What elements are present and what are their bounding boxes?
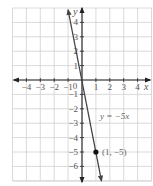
y-tick-label: −4 (68, 133, 78, 143)
x-tick-label: 4 (135, 82, 140, 92)
y-tick-label: −3 (68, 118, 78, 128)
equation-label: y = −5x (99, 111, 129, 121)
y-axis-label: y (72, 6, 78, 17)
x-tick-label: 3 (121, 82, 126, 92)
graph-y-equals-neg5x: xy −4−3−2−112341234−1−2−3−4−5−60 (1, −5)… (0, 0, 153, 186)
x-tick-label: 2 (108, 82, 113, 92)
point-label: (1, −5) (102, 147, 127, 157)
y-tick-label: 4 (74, 17, 79, 27)
data-points: (1, −5) (93, 147, 126, 157)
y-tick-label: −6 (68, 161, 78, 171)
y-tick-label: 1 (74, 61, 79, 71)
y-tick-label: −2 (68, 104, 78, 114)
annotations: y = −5x (99, 111, 129, 121)
x-axis-label: x (143, 81, 149, 92)
origin-label: 0 (73, 81, 78, 91)
x-tick-label: −2 (49, 82, 59, 92)
y-tick-label: −5 (68, 147, 78, 157)
point-1-neg5 (93, 149, 98, 154)
x-tick-label: −3 (36, 82, 46, 92)
x-tick-label: −4 (22, 82, 32, 92)
x-tick-label: 1 (94, 82, 99, 92)
